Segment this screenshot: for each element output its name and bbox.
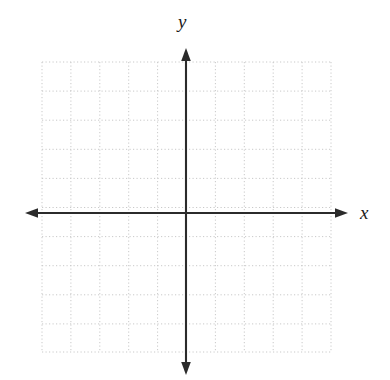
y-axis-arrow-down xyxy=(181,362,191,375)
coordinate-plane-svg xyxy=(0,0,390,380)
x-axis-arrow-right xyxy=(335,208,348,218)
x-axis-label: x xyxy=(360,203,368,222)
y-axis xyxy=(181,48,191,375)
coordinate-plane-figure: y x xyxy=(0,0,390,380)
y-axis-label: y xyxy=(178,12,186,31)
x-axis-arrow-left xyxy=(25,208,38,218)
y-axis-arrow-up xyxy=(181,48,191,61)
